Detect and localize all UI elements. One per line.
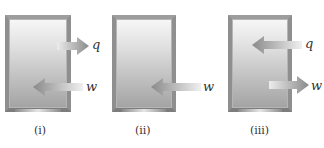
- system-container: [5, 15, 71, 112]
- work-out-arrow-icon: [269, 76, 309, 94]
- work-in-arrow-icon: [33, 78, 83, 96]
- heat-in-arrow-icon: [252, 36, 302, 54]
- heat-symbol: q: [305, 37, 313, 50]
- work-symbol: w: [86, 80, 97, 93]
- system-container: [112, 15, 176, 112]
- work-symbol: w: [203, 80, 214, 93]
- heat-out-arrow-icon: [57, 37, 89, 55]
- cropped-caption-fragment: [0, 0, 324, 3]
- panel-label: (iii): [250, 124, 269, 137]
- system-container: [228, 15, 292, 112]
- work-in-arrow-icon: [151, 78, 201, 96]
- work-symbol: w: [311, 79, 322, 92]
- panel-label: (i): [34, 124, 46, 137]
- heat-symbol: q: [92, 38, 100, 51]
- panel-label: (ii): [135, 124, 151, 137]
